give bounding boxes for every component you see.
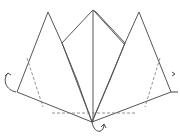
left-fold-arrow-icon	[5, 73, 16, 92]
right-fold-arrow-icon	[171, 72, 178, 92]
left-flap	[17, 12, 92, 122]
right-flap	[92, 12, 171, 122]
right-diagonal-fold-line	[145, 58, 160, 107]
origami-diagram	[0, 0, 180, 137]
bottom-fold-arrow-icon	[92, 122, 106, 131]
